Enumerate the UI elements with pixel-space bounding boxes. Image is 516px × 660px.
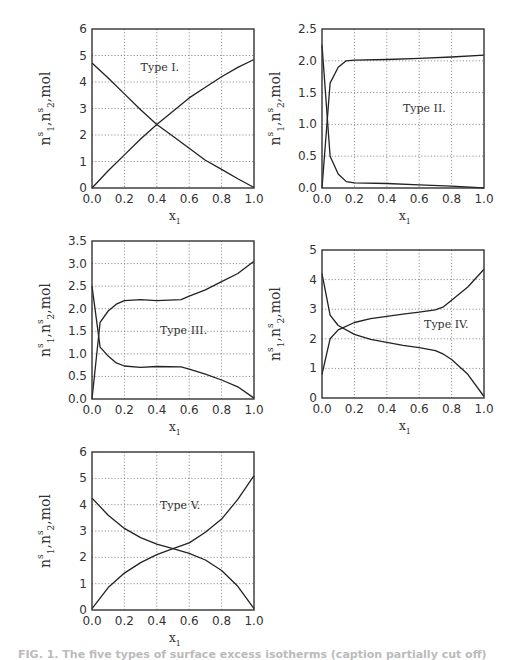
y-tick-label: 2.5 [298,22,317,36]
chart-panel-5: 01234560.00.20.40.60.81.0Type V.x1ns1,ns… [35,445,264,648]
series-n2s [322,45,484,188]
x-tick-label: 1.0 [244,403,263,417]
x-tick-label: 0.0 [312,192,331,206]
x-tick-label: 1.0 [474,192,493,206]
series-n2s [92,498,254,609]
y-tick-label: 5 [309,243,317,257]
y-tick-label: 3 [79,524,87,538]
y-tick-label: 0.5 [68,369,87,383]
x-axis-label: x1 [399,419,411,436]
y-tick-label: 2.0 [298,54,317,68]
y-tick-label: 2 [79,550,87,564]
y-axis-label: ns1,ns2,mol [35,283,56,357]
x-tick-label: 0.6 [180,614,199,628]
y-tick-label: 2 [309,332,317,346]
chart-panel-1: 01234560.00.20.40.60.81.0Type I.x1ns1,ns… [35,22,264,226]
y-tick-label: 1 [309,361,317,375]
x-axis-label: x1 [169,420,181,437]
grid-lines [92,452,254,610]
type-annotation: Type V. [160,499,200,512]
series-n2s [92,286,254,398]
x-tick-label: 0.4 [377,402,396,416]
x-tick-label: 1.0 [244,614,263,628]
series-n2s [92,63,254,188]
type-annotation: Type II. [403,102,446,115]
x-tick-label: 0.6 [180,192,199,206]
y-axis-label: ns1,ns2,mol [35,494,56,568]
y-axis-label: ns1,ns2,mol [265,287,286,361]
x-axis-label: x1 [399,209,411,226]
type-annotation: Type IV. [424,318,468,331]
y-tick-label: 4 [79,75,87,89]
x-tick-label: 1.0 [244,192,263,206]
x-tick-label: 0.8 [212,614,231,628]
x-tick-label: 0.4 [147,192,166,206]
x-tick-label: 0.8 [212,192,231,206]
x-tick-label: 0.8 [442,192,461,206]
y-tick-label: 1 [79,577,87,591]
type-annotation: Type III. [160,324,207,337]
x-tick-label: 0.2 [345,192,364,206]
x-tick-label: 1.0 [474,402,493,416]
x-axis-label: x1 [169,209,181,226]
series-n1s [92,60,254,189]
y-tick-label: 3.5 [68,234,87,248]
plot-frame [92,241,254,399]
figure-caption: FIG. 1. The five types of surface excess… [18,648,487,660]
y-tick-label: 5 [79,471,87,485]
x-tick-label: 0.2 [115,403,134,417]
y-axis-label: ns1,ns2,mol [35,71,56,145]
x-tick-label: 0.8 [212,403,231,417]
series-n1s [92,476,254,609]
grid-lines [92,241,254,399]
x-tick-label: 0.6 [180,403,199,417]
y-tick-label: 1 [79,155,87,169]
figure-panels: 01234560.00.20.40.60.81.0Type I.x1ns1,ns… [0,0,516,660]
y-tick-label: 1.5 [68,324,87,338]
x-tick-label: 0.2 [115,614,134,628]
x-tick-label: 0.0 [82,192,101,206]
x-tick-label: 0.8 [442,402,461,416]
y-tick-label: 3.0 [68,257,87,271]
y-axis-label: ns1,ns2,mol [265,71,286,145]
y-tick-label: 2.0 [68,302,87,316]
y-tick-label: 6 [79,445,87,459]
x-tick-label: 0.6 [410,192,429,206]
chart-panel-3: 0.00.51.01.52.02.53.03.50.00.20.40.60.81… [35,234,264,437]
x-tick-label: 0.0 [82,403,101,417]
y-tick-label: 5 [79,49,87,63]
x-tick-label: 0.0 [312,402,331,416]
y-tick-label: 4 [309,273,317,287]
type-annotation: Type I. [141,61,179,74]
y-tick-label: 1.5 [298,86,317,100]
series-n1s [322,55,484,188]
y-tick-label: 3 [309,302,317,316]
y-tick-label: 6 [79,22,87,36]
y-tick-label: 2 [79,128,87,142]
chart-panel-2: 0.00.51.01.52.02.50.00.20.40.60.81.0Type… [265,22,494,226]
x-tick-label: 0.4 [377,192,396,206]
y-tick-label: 0.5 [298,149,317,163]
y-tick-label: 4 [79,498,87,512]
x-tick-label: 0.2 [345,402,364,416]
y-tick-label: 1.0 [298,117,317,131]
x-tick-label: 0.4 [147,403,166,417]
y-tick-label: 2.5 [68,279,87,293]
series-n2s [322,274,484,397]
y-tick-label: 3 [79,102,87,116]
x-tick-label: 0.4 [147,614,166,628]
x-tick-label: 0.6 [410,402,429,416]
grid-lines [92,29,254,188]
x-axis-label: x1 [169,631,181,648]
y-tick-label: 1.0 [68,347,87,361]
x-tick-label: 0.2 [115,192,134,206]
x-tick-label: 0.0 [82,614,101,628]
chart-panel-4: 0123450.00.20.40.60.81.0Type IV.x1ns1,ns… [265,243,494,436]
charts-canvas: 01234560.00.20.40.60.81.0Type I.x1ns1,ns… [0,0,516,660]
